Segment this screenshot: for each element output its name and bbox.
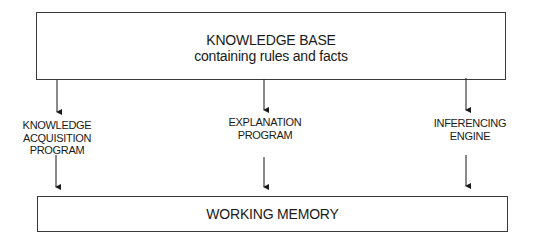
label-line: ACQUISITION [8,132,106,145]
inferencing-engine-label: INFERENCING ENGINE [420,117,520,142]
label-line: EXPLANATION [215,116,315,129]
label-line: INFERENCING [420,117,520,130]
knowledge-base-subtitle: containing rules and facts [37,48,505,64]
explanation-program-label: EXPLANATION PROGRAM [215,116,315,141]
label-line: PROGRAM [8,144,106,157]
label-line: ENGINE [420,130,520,143]
knowledge-base-box: KNOWLEDGE BASE containing rules and fact… [36,12,506,80]
knowledge-base-title: KNOWLEDGE BASE [37,32,505,48]
working-memory-box: WORKING MEMORY [37,196,508,232]
working-memory-title: WORKING MEMORY [38,206,507,222]
label-line: PROGRAM [215,129,315,142]
label-line: KNOWLEDGE [8,119,106,132]
knowledge-acquisition-program-label: KNOWLEDGE ACQUISITION PROGRAM [8,119,106,157]
